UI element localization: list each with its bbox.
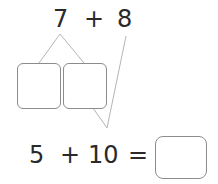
answer-box[interactable] bbox=[155, 136, 207, 179]
bottom-plus-sign: + bbox=[60, 143, 80, 167]
split-box-right[interactable] bbox=[63, 63, 107, 109]
top-second-addend: 8 bbox=[117, 7, 132, 31]
bottom-second-addend: 10 bbox=[88, 143, 119, 167]
top-plus-sign: + bbox=[84, 7, 104, 31]
bottom-first-addend: 5 bbox=[29, 143, 44, 167]
top-first-addend: 7 bbox=[53, 7, 68, 31]
equals-sign: = bbox=[128, 143, 148, 167]
split-box-left[interactable] bbox=[17, 63, 61, 109]
